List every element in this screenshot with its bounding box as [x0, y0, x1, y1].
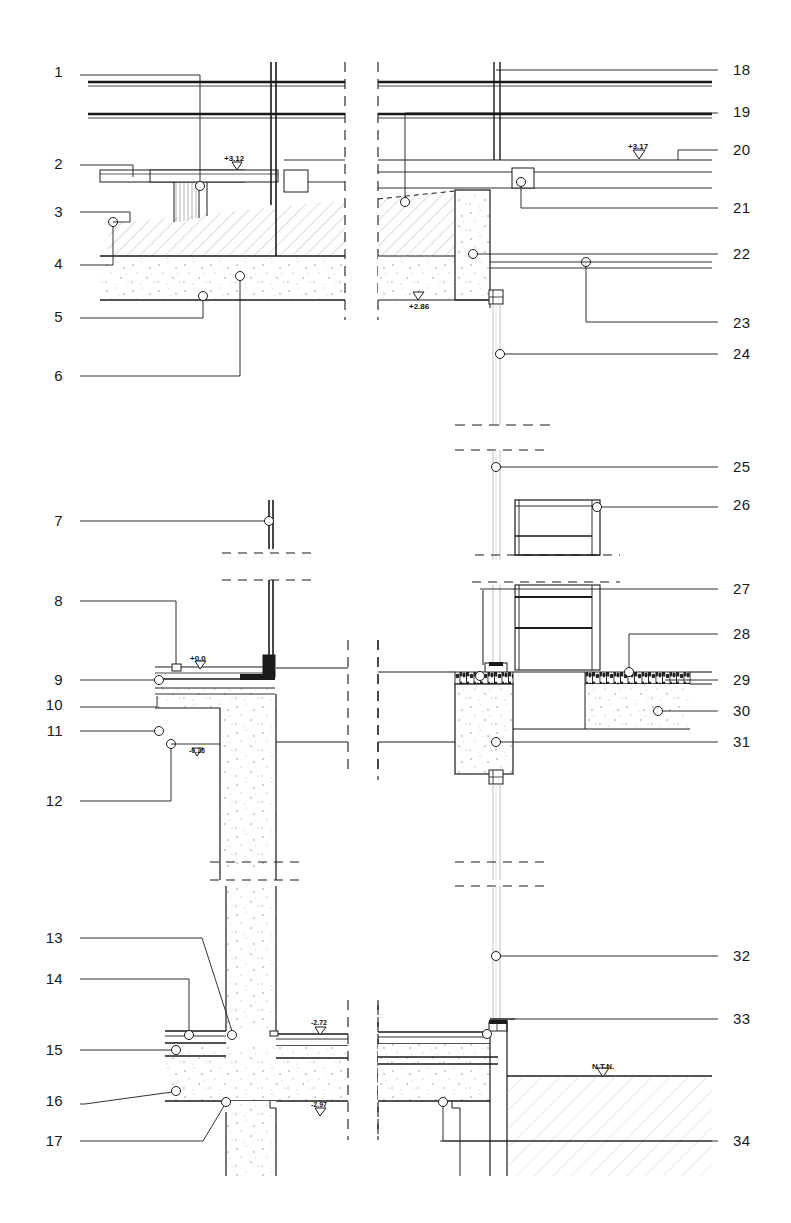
callout-number-16[interactable]: 16 — [46, 1093, 63, 1108]
callout-number-14[interactable]: 14 — [46, 971, 63, 986]
callout-number-13[interactable]: 13 — [46, 930, 63, 945]
callout-number-3[interactable]: 3 — [54, 204, 63, 219]
elev-m026: -0.26 — [189, 747, 205, 754]
callout-number-34[interactable]: 34 — [733, 1133, 750, 1148]
callout-number-21[interactable]: 21 — [733, 200, 750, 215]
callout-number-24[interactable]: 24 — [733, 346, 750, 361]
callout-number-18[interactable]: 18 — [733, 62, 750, 77]
detail-bottom-left — [85, 880, 378, 1176]
callout-number-10[interactable]: 10 — [46, 697, 63, 712]
elev-m297: -2.97 — [311, 1101, 327, 1108]
elev-317: +3.17 — [628, 143, 648, 151]
callout-number-22[interactable]: 22 — [733, 246, 750, 261]
elev-312: +3.12 — [224, 155, 244, 163]
callout-number-30[interactable]: 30 — [733, 703, 750, 718]
callout-number-23[interactable]: 23 — [733, 315, 750, 330]
elev-000: +0.0 — [190, 655, 206, 663]
callout-number-12[interactable]: 12 — [46, 793, 63, 808]
callout-number-19[interactable]: 19 — [733, 104, 750, 119]
callout-number-33[interactable]: 33 — [733, 1011, 750, 1026]
callout-number-25[interactable]: 25 — [733, 459, 750, 474]
callout-number-8[interactable]: 8 — [54, 593, 63, 608]
callout-number-11[interactable]: 11 — [47, 723, 63, 738]
callout-number-17[interactable]: 17 — [46, 1133, 63, 1148]
callout-number-5[interactable]: 5 — [54, 309, 63, 324]
callout-number-7[interactable]: 7 — [54, 513, 63, 528]
callout-number-6[interactable]: 6 — [54, 368, 63, 383]
elev-ntn: N.T.N. — [592, 1063, 614, 1071]
detail-middle-right — [378, 450, 712, 880]
callout-number-26[interactable]: 26 — [733, 497, 750, 512]
callout-number-28[interactable]: 28 — [733, 626, 750, 641]
detail-middle-left — [85, 500, 378, 880]
callout-number-15[interactable]: 15 — [46, 1042, 63, 1057]
architectural-drawing-canvas — [0, 0, 791, 1223]
elev-m272: -2.72 — [311, 1019, 327, 1026]
callout-number-27[interactable]: 27 — [733, 581, 750, 596]
detail-top-left — [85, 62, 345, 376]
elev-286: +2.86 — [409, 303, 429, 311]
callout-number-1[interactable]: 1 — [54, 64, 63, 79]
detail-sheet: 1234567891011121314151617 18192021222324… — [0, 0, 791, 1223]
callout-number-29[interactable]: 29 — [733, 672, 750, 687]
callout-number-2[interactable]: 2 — [54, 156, 63, 171]
callout-number-4[interactable]: 4 — [54, 256, 63, 271]
callout-number-9[interactable]: 9 — [54, 672, 63, 687]
detail-bottom-right — [378, 886, 712, 1176]
callout-number-31[interactable]: 31 — [733, 734, 750, 749]
callout-number-32[interactable]: 32 — [733, 948, 750, 963]
callout-number-20[interactable]: 20 — [733, 142, 750, 157]
detail-top-right — [378, 62, 712, 425]
